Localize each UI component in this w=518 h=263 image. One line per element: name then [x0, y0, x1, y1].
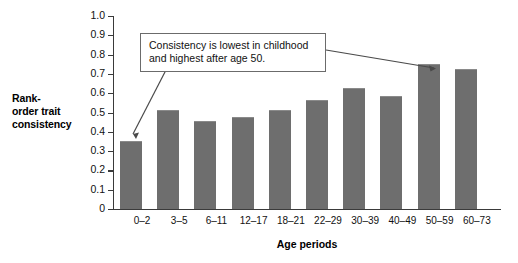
- y-axis-title-line-2: order trait: [12, 105, 90, 118]
- annotation-callout: Consistency is lowest in childhood and h…: [140, 33, 326, 72]
- bar: [455, 69, 477, 209]
- y-axis-tick-mark: [108, 16, 113, 17]
- y-axis-tick-label: 0.9: [90, 28, 105, 40]
- chart-figure: Rank- order trait consistency 1.00.90.80…: [0, 0, 518, 263]
- y-axis-tick-label: 0.1: [90, 183, 105, 195]
- bar: [269, 110, 291, 209]
- bar: [380, 96, 402, 209]
- bar: [418, 64, 440, 209]
- y-axis-tick-mark: [108, 93, 113, 94]
- bar: [157, 110, 179, 209]
- y-axis-tick-label: 0.6: [90, 86, 105, 98]
- y-axis-tick-mark: [108, 132, 113, 133]
- y-axis-line: [113, 16, 114, 210]
- annotation-line-2: and highest after age 50.: [149, 52, 318, 65]
- bar: [232, 117, 254, 209]
- y-axis-title-line-1: Rank-: [12, 92, 90, 105]
- y-axis-title: Rank- order trait consistency: [12, 92, 90, 131]
- y-axis-tick-label: 0.4: [90, 125, 105, 137]
- y-axis-title-line-3: consistency: [12, 118, 90, 131]
- y-axis-tick-label: 1.0: [90, 9, 105, 21]
- y-axis-tick-mark: [108, 55, 113, 56]
- y-axis-tick-mark: [108, 74, 113, 75]
- y-axis-tick-mark: [108, 190, 113, 191]
- bar: [343, 88, 365, 209]
- x-axis-title: Age periods: [113, 238, 501, 250]
- y-axis-tick-label: 0.3: [90, 144, 105, 156]
- annotation-line-1: Consistency is lowest in childhood: [149, 39, 318, 52]
- y-axis-tick-label: 0.2: [90, 163, 105, 175]
- x-axis-tick-label: 60–73: [454, 215, 500, 226]
- y-axis-tick-label: 0: [99, 202, 105, 214]
- y-axis-tick-label: 0.5: [90, 106, 105, 118]
- y-axis-tick-mark: [108, 170, 113, 171]
- bar: [194, 121, 216, 209]
- y-axis-tick-mark: [108, 35, 113, 36]
- bar: [120, 141, 142, 209]
- bar: [306, 100, 328, 209]
- y-axis-tick-label: 0.7: [90, 67, 105, 79]
- y-axis-tick-mark: [108, 151, 113, 152]
- x-axis-line: [113, 209, 501, 210]
- y-axis-tick-mark: [108, 209, 113, 210]
- y-axis-tick-mark: [108, 113, 113, 114]
- y-axis-tick-label: 0.8: [90, 48, 105, 60]
